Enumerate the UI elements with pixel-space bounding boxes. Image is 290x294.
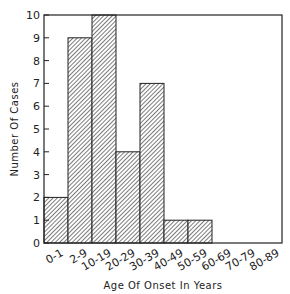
y-tick-label: 7 <box>33 77 40 90</box>
histogram-chart: 012345678910 0-12-910-1920-2930-3940-495… <box>0 0 290 294</box>
y-tick-label: 6 <box>33 100 40 113</box>
bars <box>44 15 212 243</box>
y-tick-label: 3 <box>33 169 40 182</box>
y-tick-label: 0 <box>33 237 40 250</box>
y-tick-label: 2 <box>33 191 40 204</box>
bar-40-49 <box>164 220 188 243</box>
bar-50-59 <box>188 220 212 243</box>
y-tick-label: 9 <box>33 32 40 45</box>
y-tick-label: 5 <box>33 123 40 136</box>
bar-30-39 <box>140 83 164 243</box>
x-axis: 0-12-910-1920-2930-3940-4950-5960-6970-7… <box>43 246 281 273</box>
y-tick-label: 4 <box>33 146 40 159</box>
y-tick-label: 1 <box>33 214 40 227</box>
bar-20-29 <box>116 152 140 243</box>
y-axis-title: Number Of Cases <box>9 81 20 176</box>
y-tick-label: 10 <box>26 9 40 22</box>
x-tick-label: 0-1 <box>43 246 65 266</box>
x-axis-title: Age Of Onset In Years <box>103 280 222 291</box>
bar-2-9 <box>68 38 92 243</box>
y-tick-label: 8 <box>33 55 40 68</box>
bar-10-19 <box>92 15 116 243</box>
